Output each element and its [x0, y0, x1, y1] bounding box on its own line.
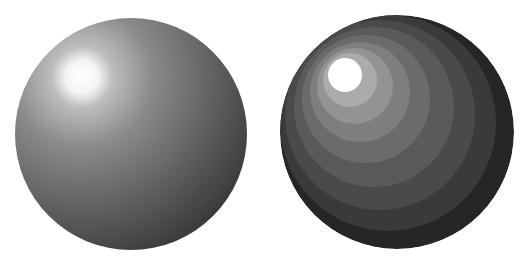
smooth-shaded-sphere — [15, 18, 247, 250]
figure — [0, 0, 530, 269]
highlight-band — [328, 58, 362, 92]
banded-shaded-sphere — [280, 15, 514, 249]
sphere-body — [15, 18, 247, 250]
spheres-canvas — [0, 0, 530, 269]
